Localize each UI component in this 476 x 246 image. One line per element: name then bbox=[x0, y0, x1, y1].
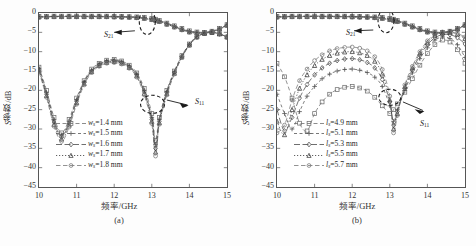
legend-item: ws=1.7 mm bbox=[56, 150, 123, 161]
caption-b: (b) bbox=[238, 215, 476, 225]
legend-line-sample bbox=[56, 140, 86, 149]
s11-annotation-a: S11 bbox=[195, 97, 204, 106]
legend-item: ls=5.5 mm bbox=[294, 150, 358, 161]
legend-line-sample bbox=[56, 129, 86, 138]
legend-line-sample bbox=[294, 140, 324, 149]
legend-item: ls=5.1 mm bbox=[294, 129, 358, 140]
x-axis-label-b: 频率/GHz bbox=[238, 199, 476, 211]
legend-line-sample bbox=[56, 151, 86, 160]
caption-a: (a) bbox=[0, 215, 238, 225]
legend-item: ls=5.3 mm bbox=[294, 139, 358, 150]
s11-annotation-b: S11 bbox=[420, 119, 429, 128]
legend-item: ls=5.7 mm bbox=[294, 160, 358, 171]
legend-item-label: ls=5.7 mm bbox=[326, 160, 358, 172]
legend-item: ws=1.8 mm bbox=[56, 160, 123, 171]
x-axis-label-a: 频率/GHz bbox=[0, 199, 238, 211]
legend-a: ws=1.4 mmws=1.5 mmws=1.6 mmws=1.7 mmws=1… bbox=[56, 118, 123, 171]
legend-line-sample bbox=[294, 151, 324, 160]
s21-annotation-a: S21 bbox=[104, 30, 113, 39]
panel-b: S参数/dB 0−5−10−15−20−25−30−35−40−45 10111… bbox=[238, 0, 476, 246]
x-axis-unit-a: /GHz bbox=[119, 201, 137, 211]
legend-line-sample bbox=[56, 119, 86, 128]
x-axis-unit-b: /GHz bbox=[357, 201, 375, 211]
legend-item: ws=1.4 mm bbox=[56, 118, 123, 129]
legend-line-sample bbox=[294, 161, 324, 170]
panel-a: S参数/dB 0−5−10−15−20−25−30−35−40−45 10111… bbox=[0, 0, 238, 246]
legend-item: ls=4.9 mm bbox=[294, 118, 358, 129]
legend-b: ls=4.9 mmls=5.1 mmls=5.3 mmls=5.5 mmls=5… bbox=[294, 118, 358, 171]
s21-annotation-b: S21 bbox=[346, 28, 355, 37]
x-axis-cn-a: 频率 bbox=[101, 201, 119, 211]
x-axis-cn-b: 频率 bbox=[339, 201, 357, 211]
legend-line-sample bbox=[56, 161, 86, 170]
legend-line-sample bbox=[294, 129, 324, 138]
legend-line-sample bbox=[294, 119, 324, 128]
legend-item-label: ws=1.8 mm bbox=[88, 160, 123, 172]
legend-item: ws=1.5 mm bbox=[56, 129, 123, 140]
legend-item: ws=1.6 mm bbox=[56, 139, 123, 150]
figure-sparameter-comparison: S参数/dB 0−5−10−15−20−25−30−35−40−45 10111… bbox=[0, 0, 476, 246]
